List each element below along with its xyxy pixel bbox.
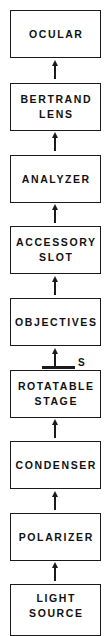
analyzer-box: ANALYZER	[10, 155, 101, 203]
objectives-label: OBJECTIVES	[13, 315, 97, 330]
arrow-shaft	[54, 64, 56, 79]
light-source-label-line-2: SOURCE	[27, 606, 83, 621]
bertrand-lens-label-line-2: LENS	[38, 107, 74, 122]
rotatable-stage-label-line-1: ROTATABLE	[16, 379, 94, 394]
arrow-shaft	[54, 352, 56, 366]
condenser-box: CONDENSER	[10, 441, 101, 489]
light-source-box: LIGHT SOURCE	[10, 584, 101, 636]
arrow-shaft	[54, 208, 56, 223]
polarizer-label: POLARIZER	[17, 530, 94, 545]
rotatable-stage-box: ROTATABLE STAGE	[10, 370, 101, 418]
specimen-bar	[42, 366, 75, 369]
bertrand-lens-box: BERTRAND LENS	[10, 83, 101, 131]
arrow-shaft	[54, 136, 56, 151]
condenser-label: CONDENSER	[14, 458, 97, 473]
light-source-label-line-1: LIGHT	[35, 591, 76, 606]
accessory-slot-label-line-1: ACCESSORY	[14, 235, 96, 250]
accessory-slot-label-line-2: SLOT	[38, 250, 74, 265]
specimen-label: S	[78, 357, 85, 369]
ocular-box: OCULAR	[10, 10, 101, 58]
analyzer-label: ANALYZER	[20, 172, 91, 187]
accessory-slot-box: ACCESSORY SLOT	[10, 226, 101, 274]
polarizer-box: POLARIZER	[10, 513, 101, 561]
ocular-label: OCULAR	[27, 27, 83, 42]
bertrand-lens-label-line-1: BERTRAND	[19, 92, 92, 107]
arrow-shaft	[54, 423, 56, 438]
rotatable-stage-label-line-2: STAGE	[33, 394, 78, 409]
arrow-shaft	[54, 280, 56, 295]
objectives-box: OBJECTIVES	[10, 298, 101, 346]
arrow-shaft	[54, 566, 56, 581]
arrow-shaft	[54, 495, 56, 510]
